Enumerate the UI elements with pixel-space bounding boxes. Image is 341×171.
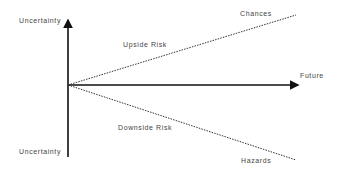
diagram-canvas: [0, 0, 341, 171]
uncertainty-bottom-label: Uncertainty: [19, 148, 61, 155]
upside-risk-label: Upside Risk: [123, 41, 167, 48]
downside-risk-line: [68, 85, 296, 160]
uncertainty-top-label: Uncertainty: [19, 17, 61, 24]
hazards-label: Hazards: [241, 157, 271, 164]
downside-risk-label: Downside Risk: [118, 124, 172, 131]
chances-label: Chances: [240, 10, 272, 17]
upside-risk-line: [68, 15, 296, 85]
future-label: Future: [300, 72, 324, 79]
